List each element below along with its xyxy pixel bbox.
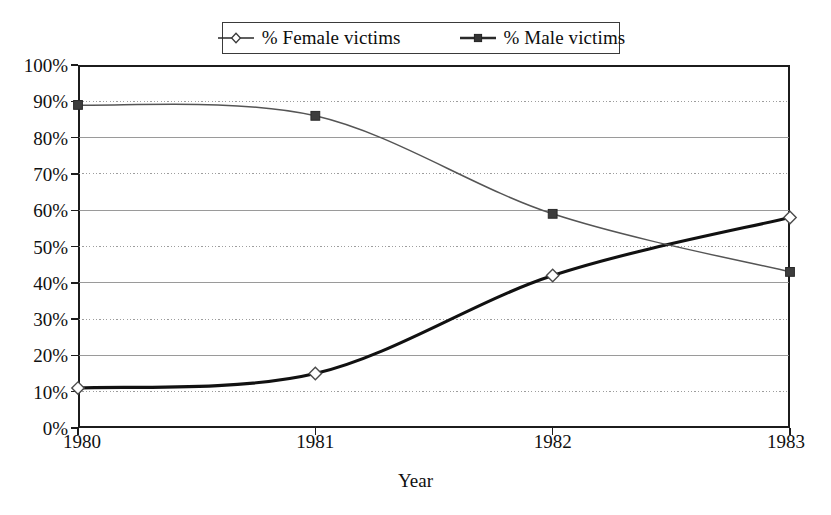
y-tick-label: 90% bbox=[33, 92, 68, 111]
open-diamond-marker-icon bbox=[217, 30, 255, 46]
y-tick-label: 80% bbox=[33, 128, 68, 147]
filled-square-marker-icon bbox=[459, 30, 497, 46]
legend-label-male: % Male victims bbox=[504, 27, 626, 49]
y-tick-label: 100% bbox=[24, 56, 68, 75]
y-tick-label: 10% bbox=[33, 382, 68, 401]
chart-legend: % Female victims % Male victims bbox=[222, 22, 620, 54]
x-tick-label: 1983 bbox=[767, 432, 805, 451]
y-tick-label: 50% bbox=[33, 237, 68, 256]
legend-entry-male: % Male victims bbox=[459, 27, 626, 49]
y-axis-labels: 0%10%20%30%40%50%60%70%80%90%100% bbox=[0, 55, 72, 440]
x-tick-label: 1982 bbox=[534, 432, 572, 451]
y-tick-label: 20% bbox=[33, 346, 68, 365]
plot-area bbox=[78, 65, 790, 428]
y-tick-label: 70% bbox=[33, 164, 68, 183]
x-tick-label: 1981 bbox=[296, 432, 334, 451]
legend-entry-female: % Female victims bbox=[217, 27, 401, 49]
x-axis-title: Year bbox=[0, 470, 831, 492]
y-tick-label: 40% bbox=[33, 273, 68, 292]
y-tick-label: 30% bbox=[33, 310, 68, 329]
x-tick-label: 1980 bbox=[63, 432, 101, 451]
legend-label-female: % Female victims bbox=[262, 27, 401, 49]
x-axis-labels: 1980198119821983 bbox=[0, 432, 831, 462]
y-tick-label: 60% bbox=[33, 201, 68, 220]
line-chart: % Female victims % Male victims 0%10%20%… bbox=[0, 0, 831, 515]
